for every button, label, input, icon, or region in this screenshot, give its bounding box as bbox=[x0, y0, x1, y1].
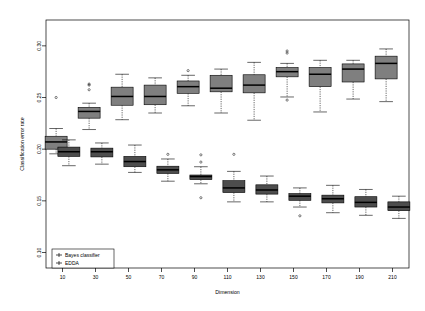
legend-label: Bayes classifier bbox=[65, 252, 100, 258]
outlier-point bbox=[200, 154, 202, 156]
box bbox=[342, 64, 364, 82]
box-group bbox=[342, 60, 364, 99]
box-group bbox=[388, 196, 410, 218]
x-tick-label: 110 bbox=[224, 274, 232, 280]
x-tick-label: 190 bbox=[355, 274, 364, 280]
box-group bbox=[289, 188, 311, 217]
box-group bbox=[45, 96, 67, 153]
plot-frame bbox=[46, 20, 409, 268]
y-tick-label: 0.10 bbox=[36, 247, 42, 257]
box-group bbox=[276, 50, 298, 101]
outlier-point bbox=[286, 99, 288, 101]
box bbox=[388, 202, 410, 211]
series-bayes-classifier bbox=[58, 140, 410, 219]
outlier-point bbox=[55, 96, 57, 98]
box-group bbox=[144, 78, 166, 113]
outlier-point bbox=[233, 153, 235, 155]
x-tick-label: 150 bbox=[289, 274, 298, 280]
x-tick-label: 70 bbox=[159, 274, 165, 280]
box-group bbox=[78, 83, 100, 130]
series-edda bbox=[45, 49, 397, 154]
box bbox=[375, 56, 397, 79]
box-group bbox=[177, 70, 199, 106]
outlier-point bbox=[167, 153, 169, 155]
x-axis-title: Dimension bbox=[215, 289, 240, 295]
box bbox=[144, 85, 166, 105]
box bbox=[78, 107, 100, 118]
box bbox=[243, 75, 265, 93]
x-tick-label: 30 bbox=[93, 274, 99, 280]
outlier-point bbox=[200, 161, 202, 163]
x-tick-label: 10 bbox=[60, 274, 66, 280]
x-tick-label: 50 bbox=[126, 274, 132, 280]
outlier-point bbox=[299, 215, 301, 217]
y-tick-label: 0.25 bbox=[36, 92, 42, 102]
box bbox=[210, 75, 232, 92]
outlier-point bbox=[187, 70, 189, 72]
box-group bbox=[309, 60, 331, 112]
box-group bbox=[157, 153, 179, 181]
box bbox=[309, 68, 331, 87]
box-group bbox=[111, 74, 133, 119]
box-group bbox=[124, 145, 146, 172]
box-group bbox=[256, 176, 278, 202]
box bbox=[91, 148, 113, 157]
x-tick-label: 130 bbox=[256, 274, 265, 280]
chart-root: 0.100.150.200.250.3010305070901101301501… bbox=[0, 0, 425, 311]
y-axis-title: Classification error rate bbox=[19, 117, 25, 170]
x-tick-label: 90 bbox=[192, 274, 198, 280]
legend-label: EDDA bbox=[65, 260, 80, 266]
box-group bbox=[322, 185, 344, 212]
box-group bbox=[355, 189, 377, 215]
box-group bbox=[223, 153, 245, 202]
boxplot-chart: 0.100.150.200.250.3010305070901101301501… bbox=[0, 0, 425, 311]
legend: Bayes classifierEDDA bbox=[52, 249, 114, 268]
box-group bbox=[243, 62, 265, 120]
box-group bbox=[91, 143, 113, 164]
box bbox=[190, 175, 212, 180]
box bbox=[223, 181, 245, 193]
outlier-point bbox=[200, 197, 202, 199]
box-group bbox=[375, 49, 397, 102]
y-tick-label: 0.20 bbox=[36, 144, 42, 154]
box bbox=[289, 194, 311, 201]
box-group bbox=[190, 154, 212, 199]
box-group bbox=[210, 69, 232, 113]
x-tick-label: 170 bbox=[322, 274, 331, 280]
outlier-point bbox=[88, 89, 90, 91]
y-tick-label: 0.15 bbox=[36, 196, 42, 206]
y-tick-label: 0.30 bbox=[36, 41, 42, 51]
x-tick-label: 210 bbox=[388, 274, 397, 280]
